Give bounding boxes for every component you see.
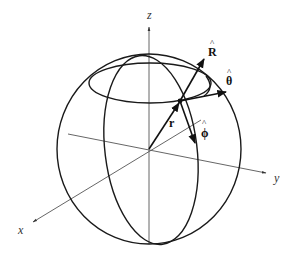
r-label: r — [169, 116, 175, 130]
surface-point — [178, 99, 183, 104]
axes — [33, 27, 266, 244]
y-axis — [68, 134, 266, 173]
latitude-circle — [89, 63, 211, 103]
z-axis-label: z — [146, 8, 152, 22]
y-axis-label: y — [273, 171, 280, 185]
phi-hat-label: ϕ — [201, 126, 209, 140]
x-axis-label: x — [17, 223, 24, 237]
spherical-coordinates-diagram: z y x r R ^ θ ^ ϕ ^ — [0, 0, 297, 267]
